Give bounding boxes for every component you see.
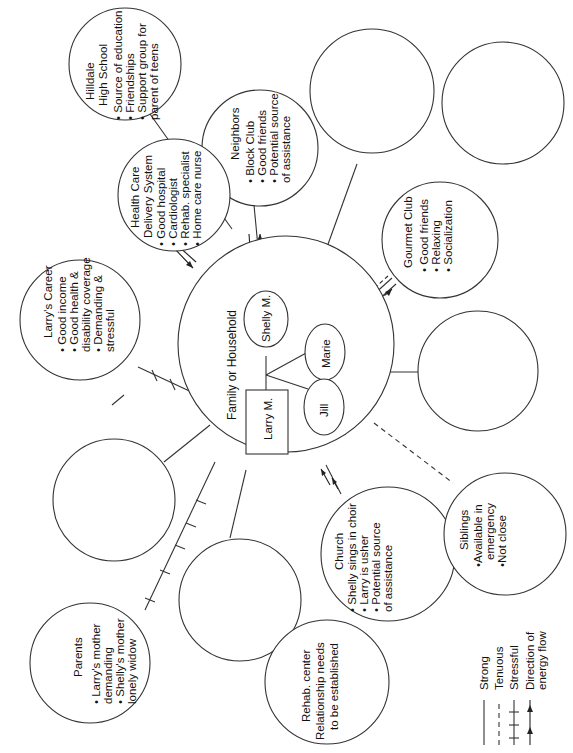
svg-text:of assistance: of assistance: [382, 545, 394, 612]
svg-text:Church: Church: [333, 533, 345, 570]
empty-circle-4: [53, 439, 175, 561]
svg-text:energy flow: energy flow: [536, 630, 548, 690]
family-label: Family or Household: [225, 310, 239, 420]
svg-text:• Larry's mother: • Larry's mother: [90, 623, 102, 704]
svg-text:stressful: stressful: [104, 309, 116, 352]
svg-text:Tenuous: Tenuous: [493, 646, 505, 690]
svg-text:parent of teens: parent of teens: [148, 43, 160, 120]
connection-siblings: [374, 423, 453, 483]
svg-text:Stressful: Stressful: [508, 645, 520, 690]
svg-text:demanding: demanding: [102, 647, 114, 704]
svg-text:• Socialization: • Socialization: [442, 200, 454, 272]
svg-text:• Potential source: • Potential source: [370, 522, 382, 612]
svg-text:Neighbors: Neighbors: [229, 107, 241, 160]
svg-text:disability coverage: disability coverage: [80, 257, 92, 352]
svg-text:Gourmet Club: Gourmet Club: [402, 196, 414, 268]
svg-text:•Not close: •Not close: [496, 515, 508, 567]
svg-text:to be established: to be established: [328, 643, 340, 730]
svg-text:• Friendships: • Friendships: [124, 53, 136, 120]
svg-text:• Cardiologist: • Cardiologist: [167, 177, 179, 246]
svg-text:• Good hospital: • Good hospital: [155, 168, 167, 246]
svg-text:• Demanding &: • Demanding &: [92, 275, 104, 352]
empty-circle-3: [418, 311, 538, 431]
svg-text:• Source of education: • Source of education: [112, 10, 124, 120]
shelly-label: Shelly M.: [260, 295, 272, 342]
svg-text:Larry's Career: Larry's Career: [42, 265, 54, 338]
svg-text:lonely widow: lonely widow: [126, 638, 138, 704]
svg-text:•Available in: •Available in: [472, 504, 484, 567]
svg-text:• Good income: • Good income: [56, 276, 68, 352]
svg-text:• Good friends: • Good friends: [256, 110, 268, 183]
svg-text:Parents: Parents: [72, 637, 84, 677]
svg-text:Rehab. center: Rehab. center: [300, 650, 312, 722]
svg-text:• Support group for: • Support group for: [136, 23, 148, 120]
rehab-center-circle: [265, 620, 389, 744]
ecomap-diagram: Family or Household Larry M. Shelly M. M…: [0, 0, 573, 753]
empty-circle-1: [310, 29, 434, 153]
legend: Strong Tenuous Stressful Direction of en…: [478, 630, 548, 745]
svg-text:Health Care: Health Care: [129, 167, 141, 228]
svg-text:Direction of: Direction of: [524, 631, 536, 690]
jill-label: Jill: [318, 404, 330, 417]
empty-circle-2: [442, 42, 564, 164]
svg-text:of assistance: of assistance: [280, 116, 292, 183]
svg-text:• Rehab. specialist: • Rehab. specialist: [179, 150, 191, 246]
svg-text:• Larry is usher: • Larry is usher: [358, 535, 370, 612]
svg-text:• Shelly's mother: • Shelly's mother: [114, 618, 126, 704]
svg-text:• Potential source: • Potential source: [268, 93, 280, 183]
svg-text:Relationship needs: Relationship needs: [314, 642, 326, 740]
svg-text:Hilldale: Hilldale: [84, 62, 96, 100]
svg-text:• Good friends: • Good friends: [418, 199, 430, 272]
svg-text:Strong: Strong: [478, 656, 490, 690]
larry-label: Larry M.: [262, 398, 274, 440]
svg-text:Delivery System: Delivery System: [142, 155, 154, 238]
marie-label: Marie: [320, 339, 332, 368]
svg-text:Siblings: Siblings: [458, 509, 470, 550]
gourmet-club-text: Gourmet Club • Good friends • Relaxing •…: [402, 196, 454, 272]
svg-text:emergency: emergency: [484, 503, 496, 560]
svg-text:High School: High School: [97, 44, 109, 106]
svg-text:• Home care nurse: • Home care nurse: [191, 151, 203, 246]
svg-text:• Shelly sings in choir: • Shelly sings in choir: [346, 503, 358, 612]
svg-text:• Relaxing: • Relaxing: [430, 220, 442, 272]
svg-text:• Block Club: • Block Club: [244, 121, 256, 183]
svg-text:• Good health &: • Good health &: [68, 271, 80, 352]
